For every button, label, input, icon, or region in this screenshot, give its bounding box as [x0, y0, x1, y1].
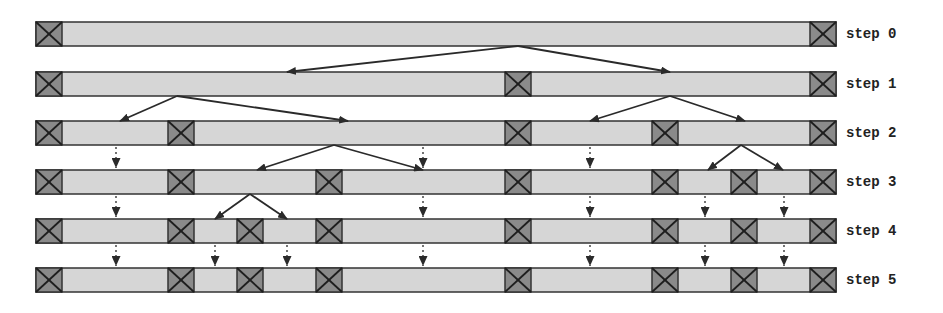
- step-label: step 4: [846, 223, 896, 239]
- split-arrow: [518, 46, 670, 72]
- pivot-box: [810, 22, 836, 46]
- pivot-box: [316, 170, 342, 194]
- step-label: step 5: [846, 272, 896, 288]
- split-arrow: [741, 145, 783, 170]
- pivot-box: [36, 170, 62, 194]
- pivot-box: [505, 219, 531, 243]
- pivot-box: [36, 268, 62, 292]
- step-row: [36, 219, 836, 243]
- carry-arrows: [116, 147, 784, 266]
- split-arrow: [590, 96, 670, 121]
- step-rows: [36, 22, 836, 292]
- pivot-box: [652, 121, 678, 145]
- pivot-box: [36, 121, 62, 145]
- pivot-box: [505, 170, 531, 194]
- split-arrow: [334, 145, 423, 170]
- step-row: [36, 170, 836, 194]
- pivot-box: [237, 268, 263, 292]
- step-row: [36, 268, 836, 292]
- array-segment-bar: [36, 121, 836, 145]
- pivot-box: [36, 72, 62, 96]
- pivot-box: [168, 121, 194, 145]
- split-arrow: [177, 96, 348, 121]
- pivot-box: [168, 170, 194, 194]
- pivot-box: [810, 268, 836, 292]
- pivot-box: [810, 170, 836, 194]
- step-row: [36, 72, 836, 96]
- array-segment-bar: [36, 72, 836, 96]
- step-row: [36, 121, 836, 145]
- split-arrow: [120, 96, 177, 121]
- pivot-box: [810, 72, 836, 96]
- pivot-box: [505, 121, 531, 145]
- pivot-box: [316, 219, 342, 243]
- pivot-box: [168, 268, 194, 292]
- split-arrow: [670, 96, 745, 121]
- step-label: step 3: [846, 174, 896, 190]
- pivot-box: [731, 268, 757, 292]
- pivot-box: [237, 219, 263, 243]
- pivot-box: [652, 268, 678, 292]
- pivot-box: [505, 268, 531, 292]
- split-arrow: [215, 194, 250, 219]
- array-segment-bar: [36, 170, 836, 194]
- pivot-box: [316, 268, 342, 292]
- array-segment-bar: [36, 219, 836, 243]
- step-row: [36, 22, 836, 46]
- pivot-box: [505, 72, 531, 96]
- step-label: step 1: [846, 76, 896, 92]
- split-arrow: [287, 46, 518, 72]
- split-arrow: [708, 145, 741, 170]
- array-segment-bar: [36, 268, 836, 292]
- split-arrow: [257, 145, 334, 170]
- pivot-box: [731, 219, 757, 243]
- pivot-box: [810, 219, 836, 243]
- split-arrow: [250, 194, 287, 219]
- pivot-box: [652, 219, 678, 243]
- step-label: step 2: [846, 125, 896, 141]
- pivot-box: [652, 170, 678, 194]
- step-label: step 0: [846, 26, 896, 42]
- pivot-box: [36, 22, 62, 46]
- array-segment-bar: [36, 22, 836, 46]
- pivot-box: [36, 219, 62, 243]
- pivot-box: [168, 219, 194, 243]
- pivot-box: [731, 170, 757, 194]
- pivot-box: [810, 121, 836, 145]
- recursive-partition-diagram: [0, 0, 943, 313]
